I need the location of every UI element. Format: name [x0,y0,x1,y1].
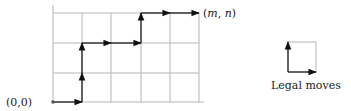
lattice-path [53,13,199,102]
legend: Legal moves [271,42,341,92]
origin-label: (0,0) [6,96,32,109]
origin-point [51,100,55,104]
lattice-path-diagram: (0,0) (m, n) Legal moves [0,0,351,111]
legend-box [288,42,316,72]
grid [53,5,204,102]
legend-label: Legal moves [271,79,341,92]
end-label: (m, n) [203,7,236,20]
